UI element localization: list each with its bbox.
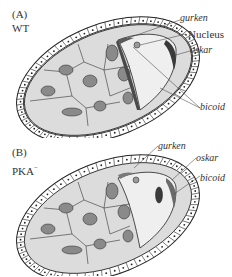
- label-oskar-b: oskar: [196, 152, 218, 163]
- label-bicoid-b: bicoid: [200, 172, 225, 183]
- oocyte-nucleus: [134, 42, 140, 48]
- label-gurken-a: gurken: [180, 12, 208, 23]
- panel-b-letter: (B): [12, 146, 27, 159]
- panel-a-letter: (A): [12, 8, 27, 21]
- label-gurken-b: gurken: [158, 140, 186, 151]
- panel-a-genotype: WT: [12, 22, 29, 35]
- oocyte-nucleus: [133, 177, 139, 183]
- panel-b-pka-mutant: (B) PKA− gurken oskar bicoid: [0, 138, 232, 276]
- mislocalized-mrna: [156, 187, 163, 203]
- label-oskar-a: oskar: [190, 44, 212, 55]
- label-nucleus-a: Nucleus: [188, 28, 224, 40]
- panel-a-wild-type: (A) WT gurken Nucleus oskar bicoid: [0, 0, 232, 138]
- panel-b-genotype: PKA−: [12, 162, 38, 178]
- label-bicoid-a: bicoid: [200, 101, 225, 112]
